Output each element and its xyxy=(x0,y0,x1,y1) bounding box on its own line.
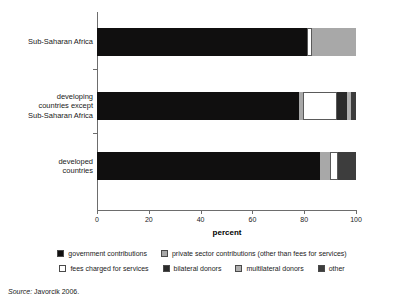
legend-swatch-icon xyxy=(161,250,168,257)
legend-row-2: fees charged for servicesbilateral donor… xyxy=(0,261,404,276)
category-label-line: developed xyxy=(0,157,93,167)
legend-swatch-icon xyxy=(59,265,66,272)
bar-segment xyxy=(338,152,356,180)
bar-segment xyxy=(97,152,320,180)
x-tick-label: 60 xyxy=(237,216,267,223)
category-label-line: Sub-Saharan Africa xyxy=(0,111,93,121)
x-tick xyxy=(304,210,305,214)
source-text: Javorcik 2006. xyxy=(34,288,79,295)
x-tick xyxy=(252,210,253,214)
legend-item[interactable]: private sector contributions (other than… xyxy=(161,250,347,257)
category-label: Sub-Saharan Africa xyxy=(0,37,93,47)
bar-row xyxy=(97,152,356,180)
bar-segment xyxy=(320,152,330,180)
legend-item[interactable]: government contributions xyxy=(57,250,147,257)
bar-segment xyxy=(330,152,338,180)
category-label-line: countries xyxy=(0,166,93,176)
legend-item[interactable]: other xyxy=(318,265,345,272)
x-axis-title: percent xyxy=(97,228,357,237)
x-tick-label: 20 xyxy=(134,216,164,223)
category-label-line: Sub-Saharan Africa xyxy=(0,37,93,47)
y-tick xyxy=(93,69,97,70)
legend-label: other xyxy=(329,265,345,272)
x-tick-label: 40 xyxy=(186,216,216,223)
legend-label: fees charged for services xyxy=(70,265,148,272)
x-tick-label: 80 xyxy=(289,216,319,223)
x-axis-line xyxy=(97,210,357,211)
legend-swatch-icon xyxy=(57,250,64,257)
bar-segment xyxy=(312,28,356,56)
legend-label: private sector contributions (other than… xyxy=(172,250,347,257)
legend-row-1: government contributionsprivate sector c… xyxy=(0,246,404,261)
x-tick-label: 0 xyxy=(82,216,112,223)
legend-item[interactable]: multilateral donors xyxy=(235,265,303,272)
legend-item[interactable]: fees charged for services xyxy=(59,265,148,272)
legend-swatch-icon xyxy=(163,265,170,272)
source-prefix: Source: xyxy=(8,288,32,295)
y-tick xyxy=(93,133,97,134)
category-label-line: developing xyxy=(0,92,93,102)
legend-swatch-icon xyxy=(318,265,325,272)
bar-segment xyxy=(97,92,299,120)
chart-legend: government contributionsprivate sector c… xyxy=(0,246,404,276)
bar-segment xyxy=(337,92,347,120)
category-label: developingcountries exceptSub-Saharan Af… xyxy=(0,92,93,121)
x-tick xyxy=(201,210,202,214)
bar-segment xyxy=(351,92,356,120)
chart-container: 020406080100 Sub-Saharan Africadevelopin… xyxy=(0,0,404,307)
bar-segment xyxy=(97,28,307,56)
x-tick-label: 100 xyxy=(341,216,371,223)
x-tick xyxy=(97,210,98,214)
x-tick xyxy=(149,210,150,214)
bar-row xyxy=(97,92,356,120)
x-tick xyxy=(356,210,357,214)
category-label-line: countries except xyxy=(0,101,93,111)
legend-item[interactable]: bilateral donors xyxy=(163,265,222,272)
category-label: developedcountries xyxy=(0,157,93,176)
legend-label: multilateral donors xyxy=(246,265,303,272)
bar-row xyxy=(97,28,356,56)
legend-label: government contributions xyxy=(68,250,147,257)
legend-label: bilateral donors xyxy=(174,265,222,272)
source-note: Source: Javorcik 2006. xyxy=(8,288,79,295)
legend-swatch-icon xyxy=(235,265,242,272)
bar-segment xyxy=(303,92,337,120)
